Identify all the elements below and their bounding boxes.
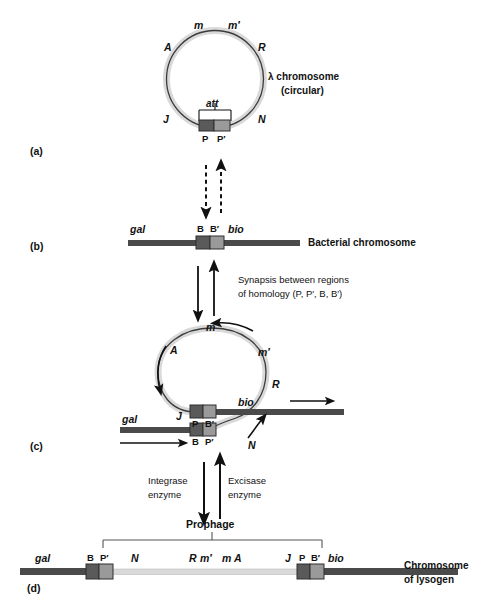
gene-label-m-prime-a: m′ xyxy=(228,20,240,31)
att-site-P-box-d xyxy=(297,564,310,579)
att-site-label-a: att xyxy=(206,99,218,109)
gene-label-J-d: J xyxy=(285,553,291,564)
att-site-B-prime-box-c xyxy=(203,405,216,418)
panel-a-circle-group xyxy=(167,31,264,132)
att-site-B-prime-box-d xyxy=(310,564,324,579)
gene-label-R-d: R xyxy=(189,553,197,564)
lysogen-chromosome-caption-line1: Chromosome xyxy=(404,561,468,571)
att-site-B-label-c: B xyxy=(192,437,199,447)
prophage-bracket-d xyxy=(103,532,322,548)
att-site-P-prime-label-c: P′ xyxy=(205,437,214,447)
synapsis-annotation-line1: Synapsis between regions xyxy=(238,275,349,285)
att-site-B-box-b xyxy=(196,236,210,249)
att-site-P-box-c xyxy=(190,405,203,418)
gene-label-m-prime-c: m′ xyxy=(258,347,270,358)
panel-b-label: (b) xyxy=(30,241,43,252)
att-site-B-box-d xyxy=(86,564,99,579)
phage-dna-outline-a xyxy=(167,31,264,128)
bacterial-arm-upper-c xyxy=(196,409,344,415)
att-site-B-prime-label-d: B′ xyxy=(311,553,320,563)
att-site-P-prime-label-a: P′ xyxy=(217,134,226,144)
gene-label-J-a: J xyxy=(163,114,169,125)
gene-label-R-a: R xyxy=(258,42,266,53)
figure-canvas xyxy=(0,0,485,608)
panel-c-label: (c) xyxy=(30,441,43,452)
att-site-B-prime-box-b xyxy=(210,236,224,249)
att-site-B-label-b: B xyxy=(197,224,204,234)
prophage-dna-bar-d xyxy=(98,569,310,575)
lambda-integration-figure: (a) m m′ A R J N att P P′ λ chromosome (… xyxy=(0,0,485,608)
gene-label-m-a: m xyxy=(194,20,203,31)
panel-a-label: (a) xyxy=(30,146,43,157)
loop-arrow-bottomright-c xyxy=(248,418,263,438)
gene-label-A-d: A xyxy=(234,553,242,564)
att-site-P-label-d: P xyxy=(299,553,305,563)
panel-c-synapsis-group xyxy=(120,323,344,443)
gene-label-J-c: J xyxy=(176,411,182,422)
gene-label-gal-c: gal xyxy=(122,414,137,425)
prophage-label-d: Prophage xyxy=(186,519,234,530)
gene-label-R-c: R xyxy=(272,379,280,390)
integrase-label-line2: enzyme xyxy=(148,490,181,500)
gene-label-N-a: N xyxy=(258,114,266,125)
panel-b-chromosome-group xyxy=(128,236,300,249)
integrase-excisase-arrow-pair xyxy=(204,459,220,519)
gene-label-bio-b: bio xyxy=(228,224,244,235)
att-site-P-prime-box-d xyxy=(99,564,113,579)
gene-label-gal-b: gal xyxy=(130,224,145,235)
att-site-P-prime-box-a xyxy=(214,120,230,131)
gene-label-N-d: N xyxy=(131,553,139,564)
synapsis-arrow-pair xyxy=(198,266,214,316)
gene-label-bio-d: bio xyxy=(328,553,344,564)
att-site-B-prime-label-c: B′ xyxy=(205,419,214,429)
att-site-P-label-c: P xyxy=(192,419,198,429)
att-site-B-prime-label-b: B′ xyxy=(210,224,219,234)
synapsis-annotation-line2: of homology (P, P′, B, B′) xyxy=(238,289,342,299)
gene-label-A-a: A xyxy=(164,42,172,53)
gene-label-A-c: A xyxy=(170,345,178,356)
gene-label-N-c: N xyxy=(248,440,256,451)
integrase-label-line1: Integrase xyxy=(148,476,188,486)
excisase-label-line1: Excisase xyxy=(228,476,266,486)
dashed-arrow-pair xyxy=(206,165,221,213)
gene-label-gal-d: gal xyxy=(35,553,50,564)
panel-d-label: (d) xyxy=(27,583,40,594)
att-site-P-box-a xyxy=(199,120,214,131)
bacterial-chromosome-caption: Bacterial chromosome xyxy=(308,238,416,248)
gene-label-bio-c: bio xyxy=(238,397,254,408)
excisase-label-line2: enzyme xyxy=(228,490,261,500)
att-site-P-prime-label-d: P′ xyxy=(100,553,109,563)
att-site-B-label-d: B xyxy=(87,553,94,563)
gene-label-m-c: m xyxy=(206,322,215,333)
lambda-chromosome-caption-line2: (circular) xyxy=(281,86,324,96)
gene-label-m-prime-d: m′ xyxy=(200,553,212,564)
gene-label-m-d: m xyxy=(222,553,231,564)
lambda-chromosome-caption-line1: λ chromosome xyxy=(268,72,339,82)
lysogen-chromosome-caption-line2: of lysogen xyxy=(404,575,454,585)
att-site-P-label-a: P xyxy=(202,134,208,144)
